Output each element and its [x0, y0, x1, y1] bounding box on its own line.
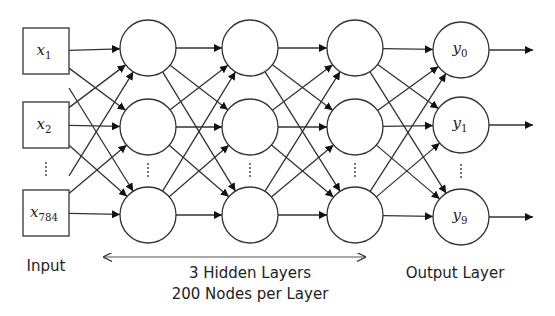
output-layer-label: Output Layer: [406, 264, 506, 282]
hidden-node: [222, 99, 278, 155]
input-ellipsis: [45, 162, 47, 176]
edge-hidden3-1-output-1: [383, 126, 433, 127]
input-node-x1: x1: [23, 28, 69, 74]
hidden-layer-1: [120, 20, 176, 243]
hidden-node: [327, 99, 383, 155]
hidden-layers-nodes-label: 200 Nodes per Layer: [172, 285, 329, 303]
edge-hidden3-0-output-1: [378, 64, 439, 108]
edge-hidden3-0-output-0: [383, 49, 433, 50]
output-ellipsis: [460, 164, 462, 178]
nodes: x1x2x784y0y1y9: [23, 20, 489, 245]
edge-input-0-hidden1-1: [69, 68, 126, 110]
edge-input-0-hidden1-0: [69, 49, 120, 51]
hidden-node: [222, 20, 278, 76]
edge-hidden3-2-output-2: [383, 216, 433, 217]
output-node-y1: y1: [433, 97, 489, 153]
hidden-layer-2: [222, 20, 278, 243]
edge-hidden3-2-output-1: [376, 143, 439, 197]
hidden-node: [120, 20, 176, 76]
edge-input-2-hidden1-2: [69, 213, 120, 214]
hidden-ellipsis-1: [147, 163, 149, 177]
hidden-node: [120, 187, 176, 243]
input-node-x2: x2: [23, 102, 69, 148]
hidden-layers-count-label: 3 Hidden Layers: [189, 264, 311, 282]
hidden-ellipsis-3: [354, 163, 356, 177]
edge-hidden3-1-output-0: [378, 66, 439, 110]
output-node-y0: y0: [433, 22, 489, 78]
hidden-node: [327, 20, 383, 76]
edge-input-1-hidden1-0: [69, 65, 126, 108]
edge-input-1-hidden1-1: [69, 125, 120, 126]
hidden-node: [327, 187, 383, 243]
neural-network-diagram: x1x2x784y0y1y9 Input 3 Hidden Layers 200…: [0, 0, 555, 316]
hidden-node: [222, 187, 278, 243]
hidden-ellipsis-2: [249, 163, 251, 177]
hidden-node: [120, 99, 176, 155]
input-layer-label: Input: [27, 257, 66, 275]
labels: Input 3 Hidden Layers 200 Nodes per Laye…: [27, 257, 506, 303]
input-node-x784: x784: [23, 190, 69, 236]
hidden-layer-3: [327, 20, 383, 243]
edge-hidden3-1-output-2: [376, 145, 439, 199]
edge-input-1-hidden1-2: [69, 145, 127, 196]
output-node-y9: y9: [433, 189, 489, 245]
